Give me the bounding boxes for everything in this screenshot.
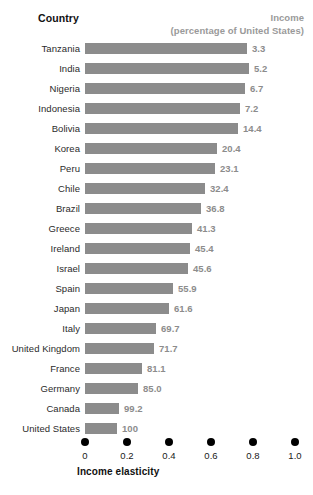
chart-row: Korea20.4 — [0, 142, 313, 162]
row-bar — [85, 123, 238, 134]
row-country-label: Indonesia — [0, 102, 80, 116]
axis-tick-label: 0.4 — [149, 450, 189, 461]
row-country-label: France — [0, 362, 80, 376]
axis-tick-dot — [123, 438, 131, 446]
row-income-value: 36.8 — [206, 202, 225, 216]
axis-tick-dot — [165, 438, 173, 446]
row-bar — [85, 143, 217, 154]
row-income-value: 3.3 — [252, 42, 265, 56]
chart-row: Italy69.7 — [0, 322, 313, 342]
chart-row: Japan61.6 — [0, 302, 313, 322]
row-income-value: 6.7 — [250, 82, 263, 96]
chart-rows: Tanzania3.3India5.2Nigeria6.7Indonesia7.… — [0, 42, 313, 442]
row-country-label: Korea — [0, 142, 80, 156]
row-income-value: 61.6 — [174, 302, 193, 316]
row-country-label: Peru — [0, 162, 80, 176]
chart-row: France81.1 — [0, 362, 313, 382]
row-bar — [85, 323, 156, 334]
row-bar — [85, 43, 247, 54]
row-income-value: 41.3 — [197, 222, 216, 236]
row-country-label: Greece — [0, 222, 80, 236]
row-bar — [85, 303, 169, 314]
row-income-value: 55.9 — [178, 282, 197, 296]
axis-tick-dot — [291, 438, 299, 446]
chart-row: Peru23.1 — [0, 162, 313, 182]
income-elasticity-chart: Country Income (percentage of United Sta… — [0, 0, 313, 495]
axis-tick-dot — [81, 438, 89, 446]
chart-row: Nigeria6.7 — [0, 82, 313, 102]
row-income-value: 99.2 — [124, 402, 143, 416]
row-country-label: United Kingdom — [0, 342, 80, 356]
chart-row: Ireland45.4 — [0, 242, 313, 262]
row-bar — [85, 363, 142, 374]
row-country-label: Nigeria — [0, 82, 80, 96]
row-bar — [85, 283, 173, 294]
row-income-value: 14.4 — [243, 122, 262, 136]
row-country-label: Italy — [0, 322, 80, 336]
row-bar — [85, 203, 201, 214]
row-income-value: 100 — [122, 422, 138, 436]
row-income-value: 71.7 — [159, 342, 178, 356]
row-bar — [85, 343, 154, 354]
row-country-label: Spain — [0, 282, 80, 296]
row-country-label: Brazil — [0, 202, 80, 216]
row-income-value: 7.2 — [245, 102, 258, 116]
chart-row: Spain55.9 — [0, 282, 313, 302]
chart-row: Canada99.2 — [0, 402, 313, 422]
chart-header: Country Income (percentage of United Sta… — [0, 10, 313, 42]
row-income-value: 85.0 — [143, 382, 162, 396]
chart-row: Indonesia7.2 — [0, 102, 313, 122]
row-bar — [85, 63, 249, 74]
row-bar — [85, 423, 117, 434]
row-country-label: India — [0, 62, 80, 76]
x-axis-title: Income elasticity — [77, 466, 159, 477]
axis-tick-dot — [249, 438, 257, 446]
row-income-value: 45.4 — [195, 242, 214, 256]
chart-row: Greece41.3 — [0, 222, 313, 242]
row-income-value: 5.2 — [254, 62, 267, 76]
row-country-label: Chile — [0, 182, 80, 196]
chart-row: Israel45.6 — [0, 262, 313, 282]
row-bar — [85, 263, 188, 274]
axis-tick-label: 1.0 — [275, 450, 313, 461]
row-income-value: 20.4 — [222, 142, 241, 156]
chart-row: Brazil36.8 — [0, 202, 313, 222]
row-bar — [85, 223, 192, 234]
column-header-income-line1: Income — [270, 12, 304, 23]
row-country-label: Israel — [0, 262, 80, 276]
row-income-value: 45.6 — [193, 262, 212, 276]
row-country-label: Japan — [0, 302, 80, 316]
row-bar — [85, 83, 245, 94]
column-header-income-line2: (percentage of United States) — [171, 24, 304, 37]
chart-row: Tanzania3.3 — [0, 42, 313, 62]
row-bar — [85, 183, 205, 194]
row-country-label: Canada — [0, 402, 80, 416]
row-country-label: United States — [0, 422, 80, 436]
chart-row: Germany85.0 — [0, 382, 313, 402]
row-country-label: Tanzania — [0, 42, 80, 56]
row-income-value: 81.1 — [147, 362, 166, 376]
chart-row: United Kingdom71.7 — [0, 342, 313, 362]
row-bar — [85, 403, 119, 414]
axis-tick-label: 0.2 — [107, 450, 147, 461]
row-bar — [85, 103, 240, 114]
row-income-value: 69.7 — [161, 322, 180, 336]
axis-tick-label: 0.8 — [233, 450, 273, 461]
chart-row: Bolivia14.4 — [0, 122, 313, 142]
row-country-label: Germany — [0, 382, 80, 396]
row-income-value: 23.1 — [220, 162, 239, 176]
column-header-country: Country — [38, 12, 79, 24]
chart-row: India5.2 — [0, 62, 313, 82]
row-bar — [85, 163, 215, 174]
row-bar — [85, 383, 138, 394]
x-axis: Income elasticity 00.20.40.60.81.0 — [0, 438, 313, 478]
row-country-label: Ireland — [0, 242, 80, 256]
axis-tick-label: 0.6 — [191, 450, 231, 461]
row-country-label: Bolivia — [0, 122, 80, 136]
row-bar — [85, 243, 190, 254]
column-header-income: Income (percentage of United States) — [171, 11, 304, 37]
chart-row: Chile32.4 — [0, 182, 313, 202]
axis-tick-dot — [207, 438, 215, 446]
row-income-value: 32.4 — [210, 182, 229, 196]
axis-tick-label: 0 — [65, 450, 105, 461]
